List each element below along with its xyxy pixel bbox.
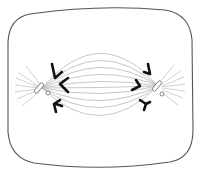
chromosome-right-middle — [132, 80, 140, 90]
left-centriole-dot — [46, 91, 50, 95]
chromosome-left-middle — [60, 78, 68, 92]
chromosome-left-upper — [52, 64, 62, 78]
right-aster-rays — [160, 65, 185, 105]
chromosome-right-upper — [144, 64, 150, 74]
chromosome-right-lower — [140, 100, 146, 110]
chromosome-left-lower-arm — [56, 104, 62, 106]
left-aster-rays — [15, 66, 40, 106]
cell-diagram-svg — [0, 0, 201, 172]
chromosome-right-lower-arm — [146, 102, 150, 104]
right-centriole-dot — [160, 92, 164, 96]
mitosis-diagram — [0, 0, 201, 172]
